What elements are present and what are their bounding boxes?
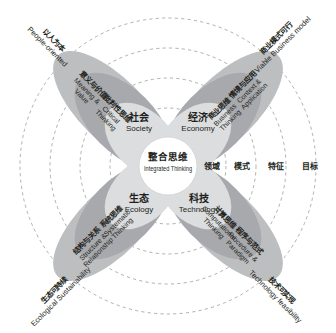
ring-legend-goal: 目标 — [302, 161, 318, 171]
diagram-canvas: 整合思维 Integrated Thinking 社会 Society 经济 E… — [0, 0, 336, 333]
core-label-en-1: Integrated Thinking — [144, 164, 192, 173]
goal-label-viable-business-model-en: Viable Business model — [253, 14, 313, 74]
core-label-zh: 整合思维 — [147, 151, 188, 162]
ring-legend-feature: 特征 — [268, 161, 284, 171]
ring-legend-domain: 领域 — [204, 161, 220, 171]
domain-label-ecology-zh: 生态 — [129, 192, 149, 204]
goal-label-people-oriented: 以人为本 People-oriented — [25, 18, 76, 69]
domain-label-economy-en: Economy — [181, 124, 214, 133]
domain-label-society-en: Society — [126, 124, 152, 133]
ring-legend-mode: 模式 — [234, 161, 250, 171]
domain-label-ecology: 生态 Ecology — [125, 192, 153, 214]
core-label: 整合思维 Integrated Thinking — [144, 151, 192, 173]
domain-label-technology-zh: 科技 — [189, 192, 210, 204]
ring-legend-group: 领域 模式 特征 目标 — [204, 161, 318, 171]
integrated-thinking-diagram: 整合思维 Integrated Thinking 社会 Society 经济 E… — [0, 0, 336, 333]
